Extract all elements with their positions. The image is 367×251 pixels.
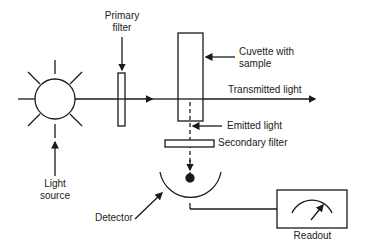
diagram-canvas bbox=[0, 0, 367, 251]
label-line: source bbox=[35, 190, 75, 202]
label-line: Light bbox=[35, 178, 75, 190]
label-line: filter bbox=[102, 22, 142, 34]
readout-label: Readout bbox=[285, 230, 340, 242]
label-line: Cuvette with bbox=[239, 46, 294, 58]
emitted-light-label: Emitted light bbox=[227, 120, 282, 132]
light-source-label: Light source bbox=[35, 178, 75, 202]
detector-label: Detector bbox=[95, 212, 133, 224]
transmitted-light-label: Transmitted light bbox=[228, 84, 302, 96]
cuvette-label: Cuvette with sample bbox=[239, 46, 294, 70]
readout-box bbox=[277, 190, 347, 228]
light-source-icon bbox=[18, 60, 82, 138]
secondary-filter-label: Secondary filter bbox=[218, 137, 287, 149]
primary-filter-label: Primary filter bbox=[102, 10, 142, 34]
cuvette bbox=[178, 33, 203, 121]
label-line: Primary bbox=[102, 10, 142, 22]
secondary-filter bbox=[165, 140, 214, 147]
label-line: sample bbox=[239, 58, 294, 70]
